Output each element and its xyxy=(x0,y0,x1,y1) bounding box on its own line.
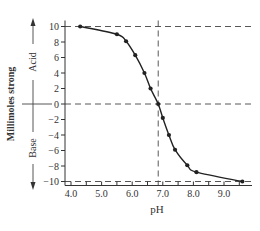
y-tick-label: 0 xyxy=(54,99,59,110)
data-point-marker xyxy=(148,86,152,90)
titration-chart: 1086420−2−4−6−8−104.05.06.07.08.09.0 pH … xyxy=(0,0,260,231)
y-tick-label: −4 xyxy=(48,130,59,141)
x-tick-label: 8.0 xyxy=(187,188,200,199)
data-point-marker xyxy=(78,24,82,28)
down-arrow-icon xyxy=(31,182,36,190)
y-axis-label-base: Base xyxy=(27,138,38,158)
x-tick-label: 9.0 xyxy=(218,188,231,199)
axis-labels: pH Millimoles strong Acid Base xyxy=(5,52,164,215)
data-point-marker xyxy=(185,163,189,167)
y-tick-label: 8 xyxy=(54,37,59,48)
data-point-marker xyxy=(133,53,137,57)
y-tick-label: 4 xyxy=(54,68,59,79)
y-tick-label: −2 xyxy=(48,114,59,125)
x-tick-label: 5.0 xyxy=(95,188,108,199)
x-tick-label: 4.0 xyxy=(65,188,78,199)
data-point-marker xyxy=(161,116,165,120)
up-arrow-icon xyxy=(31,18,36,26)
data-point-marker xyxy=(173,148,177,152)
y-tick-label: −10 xyxy=(43,176,59,187)
x-axis-label: pH xyxy=(150,203,164,215)
y-axis-label: Millimoles strong xyxy=(5,67,16,142)
x-tick-label: 7.0 xyxy=(157,188,170,199)
y-tick-label: 10 xyxy=(49,21,59,32)
y-tick-label: 2 xyxy=(54,83,59,94)
data-point-marker xyxy=(115,32,119,36)
data-point-marker xyxy=(240,179,244,183)
data-point-marker xyxy=(124,39,128,43)
axis-ticks: 1086420−2−4−6−8−104.05.06.07.08.09.0 xyxy=(43,21,239,199)
data-point-marker xyxy=(142,71,146,75)
y-tick-label: −6 xyxy=(48,145,59,156)
y-tick-label: −8 xyxy=(48,161,59,172)
y-tick-label: 6 xyxy=(54,52,59,63)
data-point-marker xyxy=(156,102,160,106)
y-axis-label-acid: Acid xyxy=(27,52,38,71)
data-point-marker xyxy=(194,170,198,174)
x-tick-label: 6.0 xyxy=(126,188,139,199)
data-point-marker xyxy=(167,133,171,137)
